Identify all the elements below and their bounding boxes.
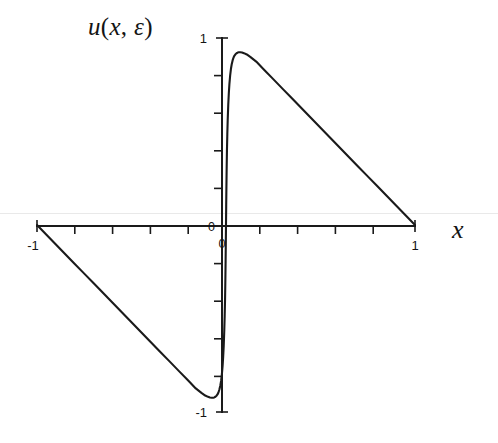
x-tick-label-left: -1 [27,238,39,253]
x-axis-ticks [75,226,373,234]
y-axis-title-u: u [88,13,101,40]
y-tick-label-bottom: -1 [195,405,207,420]
y-axis-title-comma: , [121,13,128,40]
y-tick-label-zero: 0 [208,220,215,234]
y-axis-title-x: x [109,13,120,40]
y-axis-title: u(x, ε) [88,13,153,41]
x-tick-label-zero: 0 [219,237,226,251]
x-axis-title: x [452,215,464,245]
y-tick-label-top: 1 [200,31,207,46]
y-axis-title-close-paren: ) [144,13,153,40]
x-tick-label-right: 1 [411,238,418,253]
figure-canvas: 1 -1 0 0 -1 1 u(x, ε) x [0,0,498,443]
y-axis-title-epsilon: ε [134,13,144,40]
plot-area: 1 -1 0 0 -1 1 [0,0,498,443]
